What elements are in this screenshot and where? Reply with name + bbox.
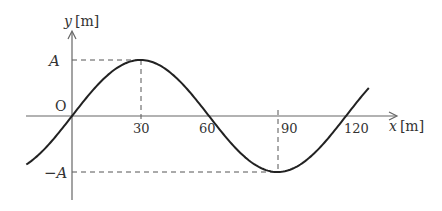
y-tick-A: A — [47, 52, 60, 70]
x-tick-30: 30 — [133, 121, 150, 136]
x-tick-120: 120 — [344, 121, 369, 136]
wave-diagram: y[m] x[m] O A −A 30 60 90 120 — [0, 0, 442, 211]
x-tick-90: 90 — [281, 121, 298, 136]
x-axis-label: x[m] — [389, 118, 424, 134]
x-tick-60: 60 — [199, 121, 216, 136]
origin-label: O — [55, 98, 66, 114]
y-axis-label: y[m] — [63, 13, 99, 29]
axes — [26, 31, 397, 200]
y-tick-negA: −A — [44, 164, 68, 182]
